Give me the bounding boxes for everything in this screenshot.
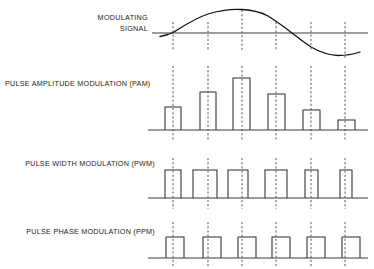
modulating-signal-label-line2: SIGNAL: [120, 24, 148, 33]
ppm-label: PULSE PHASE MODULATION (PPM): [26, 227, 155, 236]
pulse-modulation-diagram: MODULATING SIGNAL PULSE AMPLITUDE MODULA…: [0, 0, 374, 269]
pwm-label: PULSE WIDTH MODULATION (PWM): [25, 159, 155, 168]
pam-label: PULSE AMPLITUDE MODULATION (PAM): [5, 79, 151, 88]
modulating-signal-label-line1: MODULATING: [98, 13, 148, 22]
